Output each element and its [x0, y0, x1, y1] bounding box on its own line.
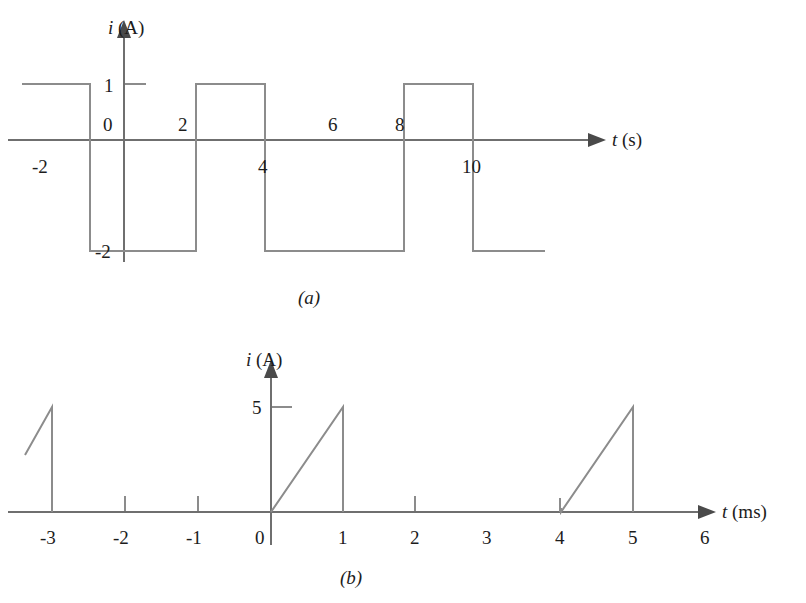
x-tick-label-neg2-b: -2: [113, 528, 129, 547]
x-axis-unit-b: (ms): [732, 501, 767, 522]
waveform-sawtooth-partial-b: [25, 407, 52, 512]
x-axis-label-b: t (ms): [722, 502, 767, 521]
panel-b-waveform: [25, 407, 633, 512]
x-tick-label-3-b: 3: [482, 528, 492, 547]
x-tick-label-0-b: 0: [255, 528, 265, 547]
x-tick-label-1-b: 1: [338, 528, 348, 547]
y-axis-label-b: i (A): [246, 350, 282, 369]
x-tick-label-neg3-b: -3: [40, 528, 56, 547]
x-tick-label-4-b: 4: [555, 528, 565, 547]
x-tick-label-6-b: 6: [700, 528, 710, 547]
x-axis-var-b: t: [722, 501, 727, 522]
panel-b-axes: [8, 360, 716, 545]
y-tick-label-5-b: 5: [252, 398, 262, 417]
x-tick-label-5-b: 5: [628, 528, 638, 547]
y-axis-var-b: i: [246, 349, 251, 370]
y-axis-unit-b: (A): [256, 349, 282, 370]
x-axis-arrowhead-b: [698, 505, 716, 519]
figure-container: i (A) t (s) 1 0 -2 -2 2 4 6 8 10 (a): [0, 0, 806, 603]
x-tick-label-neg1-b: -1: [186, 528, 202, 547]
waveform-sawtooth-1-b: [271, 407, 343, 512]
x-tick-label-2-b: 2: [410, 528, 420, 547]
waveform-sawtooth-2-b: [561, 407, 633, 512]
panel-b-plot: [0, 0, 806, 603]
panel-caption-b: (b): [340, 568, 362, 587]
